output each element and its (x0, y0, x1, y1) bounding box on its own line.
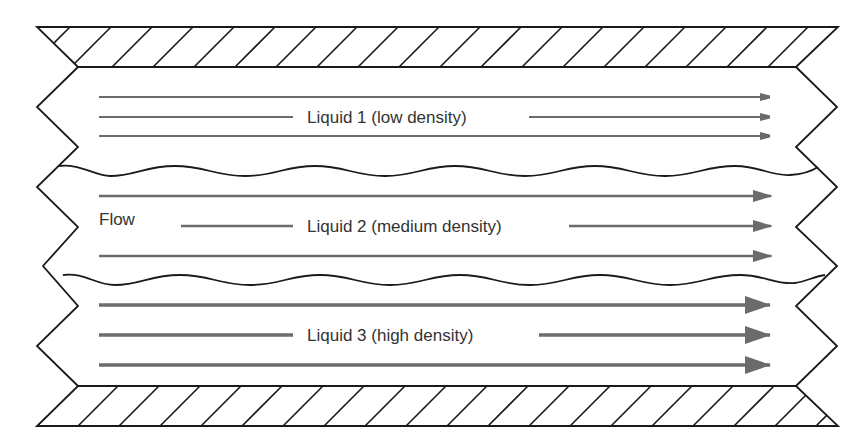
flow-label: Flow (99, 211, 135, 228)
layer-2-label: Liquid 2 (medium density) (307, 218, 502, 235)
layer-3-label: Liquid 3 (high density) (307, 327, 473, 344)
right-break-line (796, 67, 837, 386)
bottom-wall (37, 386, 856, 426)
interface-wave-1 (58, 166, 818, 176)
left-break-line (37, 67, 78, 386)
layer-1-label: Liquid 1 (low density) (307, 109, 467, 126)
top-wall (30, 27, 838, 67)
flow-diagram: Liquid 1 (low density) Flow Liquid 2 (me… (0, 0, 868, 447)
interface-wave-2 (63, 275, 825, 285)
